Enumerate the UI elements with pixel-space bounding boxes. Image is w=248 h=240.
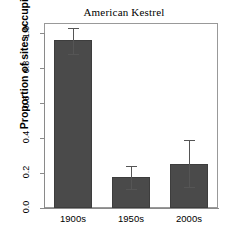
- error-bar-cap-lower: [126, 189, 137, 190]
- y-tick-mark: [40, 173, 44, 174]
- x-tick-label: 2000s: [167, 213, 211, 224]
- y-tick-mark: [40, 103, 44, 104]
- y-tick-label: 0.0: [21, 196, 31, 218]
- x-axis-line: [44, 208, 219, 209]
- error-bar-cap-upper: [68, 28, 79, 29]
- y-tick-mark: [40, 208, 44, 209]
- error-bar-cap-upper: [184, 140, 195, 141]
- y-tick-mark: [40, 138, 44, 139]
- error-bar-stem: [189, 140, 190, 187]
- error-bar-cap-lower: [68, 54, 79, 55]
- error-bar-cap-lower: [184, 187, 195, 188]
- y-tick-mark: [40, 33, 44, 34]
- y-tick-label: 0.2: [21, 161, 31, 183]
- y-tick-label: 0.6: [21, 91, 31, 113]
- chart-title: American Kestrel: [0, 6, 248, 18]
- y-tick-label: 0.4: [21, 126, 31, 148]
- y-axis-line: [44, 33, 45, 209]
- error-bar-stem: [131, 166, 132, 189]
- y-tick-label: 0.8: [21, 56, 31, 78]
- x-tick-label: 1900s: [51, 213, 95, 224]
- chart-figure: American Kestrel Proportion of sites occ…: [0, 0, 248, 240]
- error-bar-stem: [73, 28, 74, 54]
- x-tick-label: 1950s: [109, 213, 153, 224]
- error-bar-cap-upper: [126, 166, 137, 167]
- y-tick-label: 1.0: [21, 21, 31, 43]
- bar: [54, 40, 92, 208]
- y-tick-mark: [40, 68, 44, 69]
